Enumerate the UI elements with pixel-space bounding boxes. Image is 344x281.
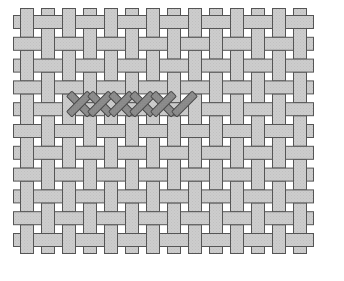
warp-thread-segment: [210, 159, 223, 190]
weft-thread-segment: [160, 59, 189, 72]
warp-thread-segment: [105, 9, 118, 38]
weft-thread-segment: [202, 16, 231, 29]
weft-thread-segment: [244, 103, 273, 116]
weft-thread-segment: [181, 125, 210, 138]
weft-thread-segment: [265, 37, 294, 50]
weft-thread-segment: [202, 103, 231, 116]
weft-thread-segment: [14, 103, 21, 116]
warp-thread-segment: [105, 225, 118, 254]
weft-thread-segment: [55, 212, 84, 225]
weft-thread-segment: [223, 168, 252, 181]
warp-thread-segment: [189, 225, 202, 254]
warp-thread-segment: [168, 203, 181, 234]
figure-root: [0, 0, 344, 281]
weft-thread-segment: [118, 234, 147, 247]
weft-thread-segment: [265, 81, 294, 94]
weft-thread-segment: [160, 190, 189, 203]
weft-thread-segment: [97, 37, 126, 50]
warp-thread-segment: [42, 203, 55, 234]
warp-thread-segment: [147, 225, 160, 254]
warp-thread-segment: [105, 181, 118, 212]
weft-thread-segment: [14, 125, 42, 138]
weft-thread-segment: [55, 168, 84, 181]
weft-thread-segment: [14, 234, 21, 247]
weft-thread-segment: [14, 59, 21, 72]
warp-thread-segment: [294, 116, 307, 147]
warp-thread-segment: [21, 94, 34, 125]
weft-thread-segment: [139, 81, 168, 94]
weave-threads: [14, 9, 314, 254]
warp-thread-segment: [294, 29, 307, 60]
weft-thread-segment: [14, 16, 21, 29]
weft-thread-segment: [223, 212, 252, 225]
warp-thread-segment: [294, 203, 307, 234]
warp-thread-segment: [294, 72, 307, 103]
weft-thread-segment: [34, 16, 63, 29]
warp-thread-segment: [273, 50, 286, 81]
warp-thread-segment: [252, 203, 265, 234]
warp-thread-segment: [126, 9, 139, 16]
warp-thread-segment: [21, 50, 34, 81]
weft-thread-segment: [244, 59, 273, 72]
weft-thread-segment: [55, 37, 84, 50]
warp-thread-segment: [84, 159, 97, 190]
weft-thread-segment: [97, 125, 126, 138]
warp-thread-segment: [63, 225, 76, 254]
warp-thread-segment: [21, 181, 34, 212]
weft-thread-segment: [202, 146, 231, 159]
weft-thread-segment: [307, 37, 314, 50]
warp-thread-segment: [210, 29, 223, 60]
weft-thread-segment: [307, 168, 314, 181]
weft-thread-segment: [181, 81, 210, 94]
warp-thread-segment: [231, 225, 244, 254]
warp-thread-segment: [42, 72, 55, 103]
warp-thread-segment: [189, 138, 202, 169]
warp-thread-segment: [21, 138, 34, 169]
weft-thread-segment: [244, 16, 273, 29]
warp-thread-segment: [294, 9, 307, 16]
weft-thread-segment: [202, 59, 231, 72]
weft-thread-segment: [139, 125, 168, 138]
weft-thread-segment: [76, 234, 105, 247]
weft-thread-segment: [286, 103, 314, 116]
warp-thread-segment: [42, 116, 55, 147]
warp-thread-segment: [63, 9, 76, 38]
warp-thread-segment: [231, 181, 244, 212]
weft-thread-segment: [286, 234, 314, 247]
weft-thread-segment: [118, 59, 147, 72]
weft-thread-segment: [307, 212, 314, 225]
weft-thread-segment: [307, 125, 314, 138]
warp-thread-segment: [210, 247, 223, 254]
weft-thread-segment: [14, 146, 21, 159]
weft-thread-segment: [34, 234, 63, 247]
weft-thread-segment: [202, 234, 231, 247]
warp-thread-segment: [252, 159, 265, 190]
warp-thread-segment: [294, 159, 307, 190]
warp-thread-segment: [168, 159, 181, 190]
weft-thread-segment: [139, 212, 168, 225]
weft-thread-segment: [118, 146, 147, 159]
warp-thread-segment: [42, 159, 55, 190]
weft-thread-segment: [76, 146, 105, 159]
warp-thread-segment: [231, 138, 244, 169]
warp-thread-segment: [189, 181, 202, 212]
weft-thread-segment: [34, 59, 63, 72]
warp-thread-segment: [126, 29, 139, 60]
warp-thread-segment: [42, 247, 55, 254]
warp-thread-segment: [210, 116, 223, 147]
weft-thread-segment: [14, 81, 42, 94]
weft-thread-segment: [223, 81, 252, 94]
warp-thread-segment: [273, 138, 286, 169]
warp-thread-segment: [21, 9, 34, 38]
weft-thread-segment: [76, 59, 105, 72]
warp-thread-segment: [84, 203, 97, 234]
weft-thread-segment: [55, 125, 84, 138]
warp-thread-segment: [189, 9, 202, 38]
weft-thread-segment: [223, 125, 252, 138]
warp-thread-segment: [147, 138, 160, 169]
weft-thread-segment: [118, 16, 147, 29]
weft-thread-segment: [223, 37, 252, 50]
warp-thread-segment: [105, 50, 118, 81]
warp-thread-segment: [273, 225, 286, 254]
warp-thread-segment: [63, 138, 76, 169]
